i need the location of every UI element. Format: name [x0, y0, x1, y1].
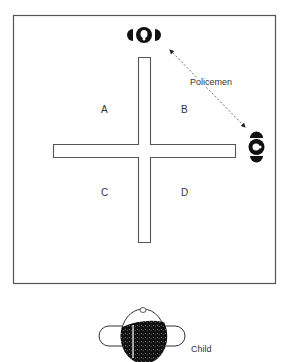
- policemen-arrow: [170, 50, 245, 127]
- quadrant-label-d: D: [181, 188, 188, 198]
- policeman-top-icon: [127, 27, 161, 43]
- policemen-label: Policemen: [189, 78, 233, 87]
- quadrant-label-b: B: [181, 105, 188, 115]
- child-label: Child: [191, 345, 212, 354]
- diagram-canvas: [0, 0, 289, 362]
- child-icon: [99, 308, 185, 362]
- quadrant-label-a: A: [101, 105, 108, 115]
- policeman-right-icon: [249, 132, 265, 163]
- quadrant-label-c: C: [101, 188, 108, 198]
